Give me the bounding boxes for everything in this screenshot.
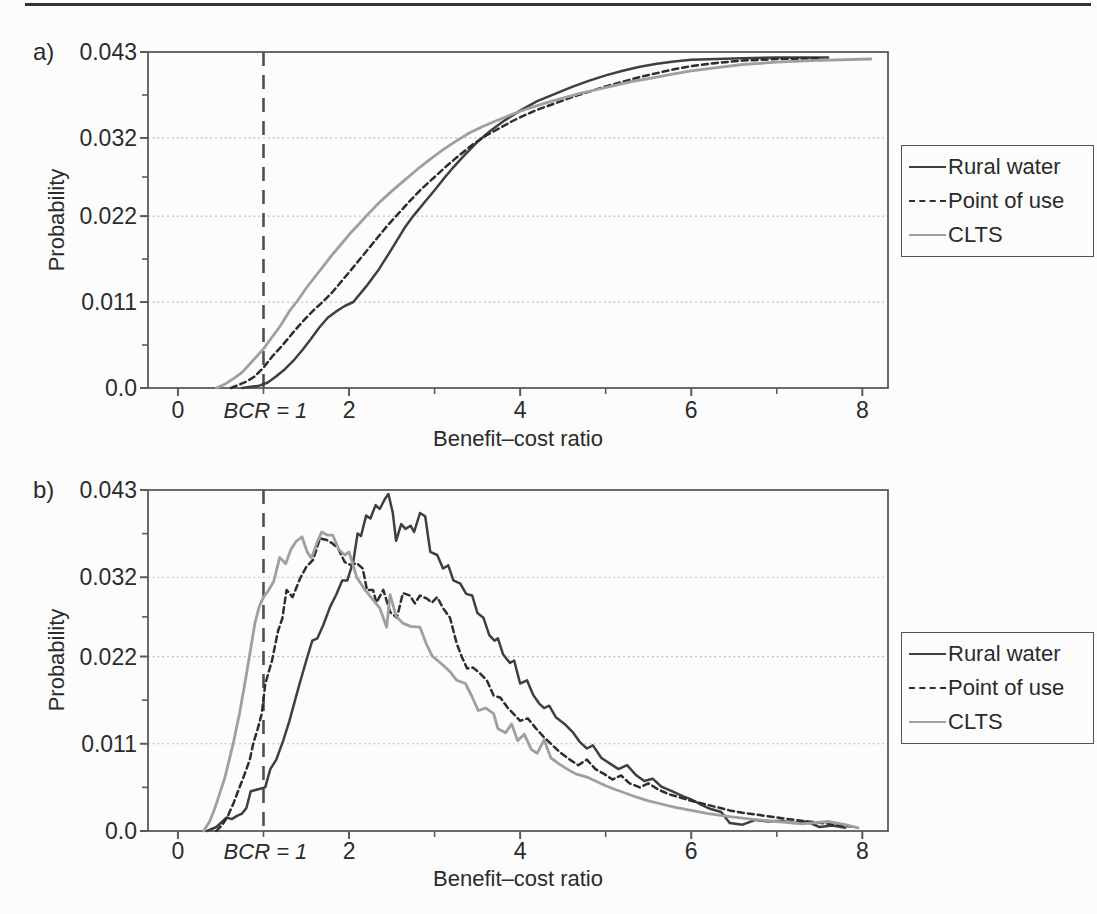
x-tick-label: 6	[685, 397, 698, 423]
y-tick-label: 0.011	[81, 731, 137, 757]
legend-label-rural-water: Rural water	[948, 154, 1060, 180]
legend-item-clts: CLTS	[909, 222, 1093, 248]
rural-water-line-sample	[909, 653, 946, 655]
legend-item-clts: CLTS	[909, 709, 1093, 735]
y-tick-label: 0.011	[81, 289, 137, 315]
series-point-of-use-line	[216, 538, 853, 831]
y-tick-label: 0.032	[79, 564, 137, 590]
x-tick-label: 4	[514, 397, 527, 423]
plot-frame	[148, 52, 888, 388]
legend-item-point-of-use: Point of use	[909, 188, 1093, 214]
legend-item-point-of-use: Point of use	[909, 675, 1093, 701]
clts-line-sample	[909, 234, 946, 236]
panel-a-x-axis-title: Benefit–cost ratio	[433, 426, 603, 452]
legend-item-rural-water: Rural water	[909, 641, 1093, 667]
y-tick-label: 0.0	[105, 375, 137, 401]
bcr-annotation-label: BCR = 1	[224, 839, 308, 864]
panel-a-legend: Rural water Point of use CLTS	[901, 145, 1094, 257]
legend-label-point-of-use: Point of use	[948, 188, 1064, 214]
rural-water-line-sample	[909, 166, 946, 168]
x-tick-label: 6	[685, 838, 698, 864]
panel-b-legend: Rural water Point of use CLTS	[901, 632, 1094, 744]
x-tick-label: 2	[343, 838, 356, 864]
x-tick-label: 0	[172, 397, 185, 423]
legend-label-clts: CLTS	[948, 709, 1003, 735]
point-of-use-line-sample	[909, 200, 946, 202]
clts-line-sample	[909, 721, 946, 723]
legend-label-point-of-use: Point of use	[948, 675, 1064, 701]
y-tick-label: 0.022	[79, 644, 137, 670]
y-tick-label: 0.032	[79, 125, 137, 151]
bcr-annotation-label: BCR = 1	[224, 398, 308, 423]
x-tick-label: 8	[856, 838, 869, 864]
legend-item-rural-water: Rural water	[909, 154, 1093, 180]
legend-label-clts: CLTS	[948, 222, 1003, 248]
series-rural-water-line	[207, 494, 845, 831]
plot-frame	[148, 490, 888, 831]
y-tick-label: 0.043	[79, 477, 137, 503]
panel-b-x-axis-title: Benefit–cost ratio	[433, 866, 603, 892]
y-tick-label: 0.022	[79, 203, 137, 229]
x-tick-label: 8	[856, 397, 869, 423]
point-of-use-line-sample	[909, 687, 946, 689]
y-tick-label: 0.0	[105, 818, 137, 844]
x-tick-label: 2	[343, 397, 356, 423]
y-tick-label: 0.043	[79, 39, 137, 65]
x-tick-label: 4	[514, 838, 527, 864]
x-tick-label: 0	[172, 838, 185, 864]
legend-label-rural-water: Rural water	[948, 641, 1060, 667]
